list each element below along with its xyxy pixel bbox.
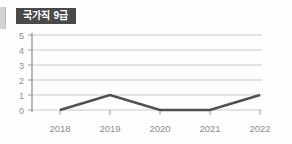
line-chart: 5 4 3 2 1 0 2018 2019 2020 2021 2022: [0, 28, 292, 144]
y-tick-label: 5: [19, 31, 24, 41]
y-tick-label: 2: [19, 76, 24, 86]
x-tick-label: 2020: [149, 123, 170, 134]
x-tick-label: 2021: [199, 123, 220, 134]
chart-screenshot: 국가직 9급 5: [0, 0, 292, 144]
x-tick-label: 2022: [249, 123, 270, 134]
y-tick-label: 4: [19, 46, 24, 56]
chart-title-badge: 국가직 9급: [16, 8, 76, 24]
x-tick-label: 2019: [99, 123, 120, 134]
y-tick-label: 1: [19, 91, 24, 101]
adjacent-badge-sliver: [0, 7, 6, 29]
gridlines: [32, 35, 262, 110]
y-tick-label: 0: [19, 106, 24, 116]
y-tick-label: 3: [19, 61, 24, 71]
data-series-line: [60, 95, 260, 110]
x-tick-label: 2018: [49, 123, 70, 134]
